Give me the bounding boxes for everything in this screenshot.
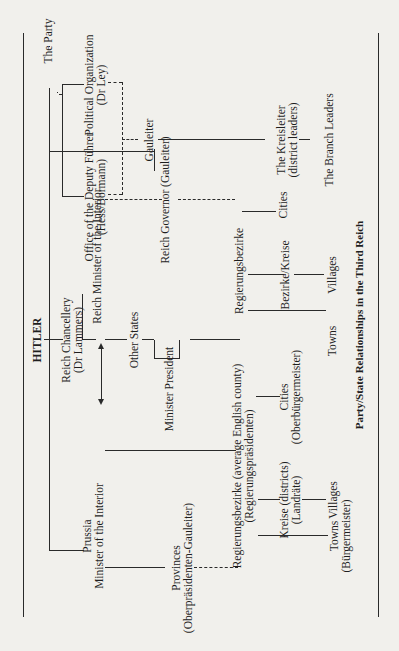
top-rule: [23, 33, 24, 617]
towns-other-states-label: Towns: [327, 326, 339, 357]
regbez-prussia-label: Regierungsbezirke (average English count…: [232, 364, 255, 569]
cities-other-states-label: Cities: [278, 192, 290, 219]
political-organization-label: Political Organization(Dr Ley): [84, 34, 107, 135]
party-label: The Party: [43, 18, 55, 63]
minister-president-label: Minister President: [164, 347, 176, 432]
kreisleiter-label: The Kreisleiter(district leaders): [276, 102, 299, 177]
bottom-rule: [378, 33, 379, 617]
kreise-prussia-label: Kreise (districts)(Landräte): [279, 462, 302, 539]
org-chart: HITLER The Party Office of the Deputy Fü…: [0, 0, 399, 651]
provinces-label: Provinces(Oberpräsidenten-Gauleiter): [171, 503, 194, 633]
bezirke-kreise-label: Bezirke/Kreise: [280, 241, 292, 310]
arrow-head-right-icon: [98, 343, 104, 349]
diagram-caption: Party/State Relationships in the Third R…: [354, 221, 366, 430]
main-spine: [49, 96, 50, 551]
double-arrow-link: [101, 345, 102, 401]
reich-chancellery-label: Reich Chancellery(Dr Lammers): [61, 297, 84, 382]
other-states-label: Other States: [129, 312, 141, 369]
hitler-label: HITLER: [32, 318, 44, 363]
prussia-minister-label: PrussiaMinister of the Interior: [82, 483, 105, 589]
reich-governor-label: Reich Governor (Gauleiter): [160, 136, 172, 263]
arrow-head-left-icon: [98, 399, 104, 405]
regbez-other-states-label: Regierungsbezirke: [234, 228, 246, 314]
towns-prussia-label: Towns(Bürgermeister): [329, 499, 352, 572]
branch-leaders-label: The Branch Leaders: [324, 93, 336, 186]
villages-other-states-label: Villages: [327, 256, 339, 294]
cities-prussia-label: Cities(Oberbürgermeister): [279, 350, 302, 444]
reich-minister-interior-label: Reich Minister of the Interior: [92, 188, 104, 323]
